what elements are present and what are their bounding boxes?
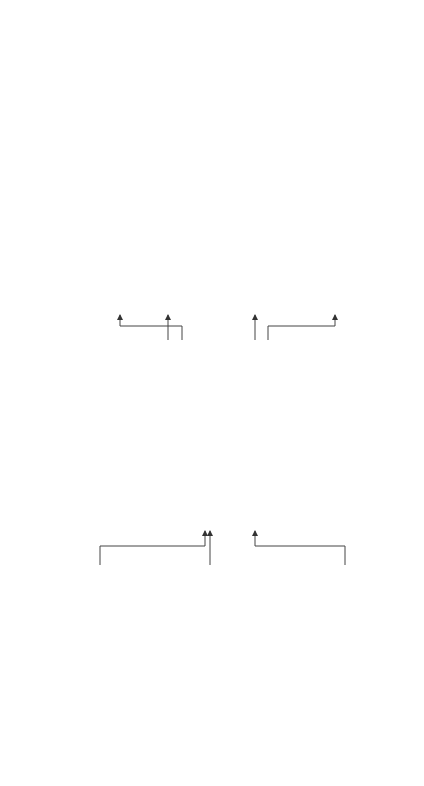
diagram-canvas (0, 0, 424, 786)
final-connectors (0, 0, 424, 786)
